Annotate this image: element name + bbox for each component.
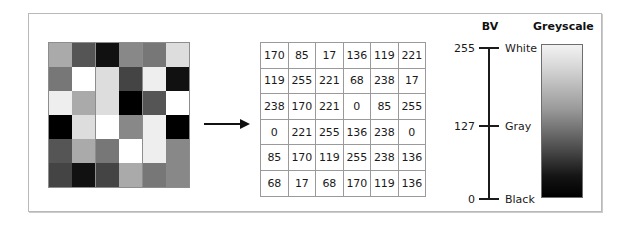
brightness-value-matrix: 1708517136119221119255221682381723817022… [260,42,426,197]
pixel-cell [143,67,166,91]
bv-cell: 136 [343,119,371,145]
pixel-cell [143,139,166,163]
pixel-cell [143,163,166,187]
bv-cell: 238 [261,94,289,120]
bv-cell: 238 [371,145,399,171]
bv-cell: 0 [343,94,371,120]
greyscale-gradient-bar [541,44,583,198]
bv-cell: 119 [371,170,399,196]
pixel-cell [72,91,95,115]
bv-cell: 17 [398,68,426,94]
bv-cell: 170 [261,43,289,69]
pixel-cell [119,163,142,187]
bv-cell: 136 [343,43,371,69]
pixel-cell [119,115,142,139]
pixel-cell [49,67,72,91]
pixel-cell [143,115,166,139]
pixel-cell [119,43,142,67]
pixel-cell [166,43,189,67]
bv-axis-tick-mark [479,198,499,200]
pixel-cell [166,115,189,139]
bv-cell: 221 [288,119,316,145]
pixel-cell [166,139,189,163]
bv-cell: 68 [343,68,371,94]
bv-cell: 221 [316,94,344,120]
bv-cell: 255 [343,145,371,171]
bv-cell: 238 [371,119,399,145]
bv-cell: 136 [398,145,426,171]
bv-cell: 255 [398,94,426,120]
pixel-cell [119,67,142,91]
bv-cell: 17 [316,43,344,69]
bv-axis-tick-value: 127 [441,120,475,133]
bv-cell: 221 [316,68,344,94]
bv-cell: 170 [343,170,371,196]
bv-cell: 221 [398,43,426,69]
greyscale-title: Greyscale [533,20,603,33]
bv-cell: 119 [261,68,289,94]
pixel-cell [96,115,119,139]
arrow-right-icon [204,117,250,131]
pixel-cell [72,139,95,163]
table-row: 681768170119136 [261,170,426,196]
pixel-cell [96,139,119,163]
bv-axis-line [488,47,490,198]
table-row: 85170119255238136 [261,145,426,171]
pixel-cell [166,91,189,115]
pixel-cell [49,91,72,115]
conversion-arrow [204,117,250,131]
bv-cell: 255 [316,119,344,145]
pixel-cell [119,91,142,115]
bv-axis-tick-value: 255 [441,42,475,55]
bv-cell: 17 [288,170,316,196]
pixel-cell [166,163,189,187]
bv-axis-tick-value: 0 [441,193,475,206]
bv-cell: 68 [261,170,289,196]
pixel-cell [72,43,95,67]
pixel-cell [49,163,72,187]
pixel-cell [72,163,95,187]
bv-matrix-body: 1708517136119221119255221682381723817022… [261,43,426,197]
bv-cell: 0 [398,119,426,145]
pixel-cell [143,43,166,67]
pixel-cell [96,67,119,91]
pixel-cell [96,163,119,187]
pixel-cell [49,139,72,163]
table-row: 238170221085255 [261,94,426,120]
bv-cell: 255 [288,68,316,94]
table-row: 1708517136119221 [261,43,426,69]
bv-cell: 119 [316,145,344,171]
pixel-cell [96,91,119,115]
bv-cell: 119 [371,43,399,69]
bv-cell: 68 [316,170,344,196]
bv-axis-tick-mark [479,125,499,127]
bv-cell: 136 [398,170,426,196]
bv-cell: 238 [371,68,399,94]
pixel-cell [72,67,95,91]
bv-cell: 170 [288,145,316,171]
table-row: 1192552216823817 [261,68,426,94]
pixel-cell [72,115,95,139]
pixel-cell [166,67,189,91]
bv-axis-title: BV [470,20,510,33]
bv-axis-tick-mark [479,47,499,49]
table-row: 02212551362380 [261,119,426,145]
bv-cell: 170 [288,94,316,120]
greyscale-image-grid [48,42,190,188]
pixel-cell [49,43,72,67]
pixel-cell [96,43,119,67]
bv-cell: 85 [371,94,399,120]
pixel-cell [143,91,166,115]
figure-root: 1708517136119221119255221682381723817022… [0,0,631,226]
pixel-cell [119,139,142,163]
bv-cell: 85 [288,43,316,69]
pixel-cell [49,115,72,139]
bv-cell: 85 [261,145,289,171]
bv-cell: 0 [261,119,289,145]
